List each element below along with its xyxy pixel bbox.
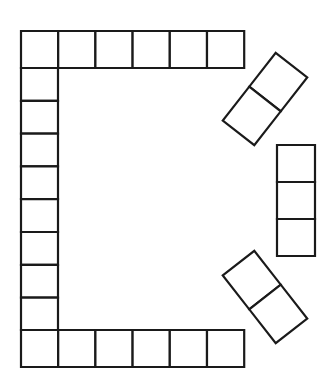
board-track-canvas — [0, 0, 334, 383]
track-cell-bottom-2[interactable] — [58, 330, 95, 367]
track-cell-top-6[interactable] — [207, 31, 244, 68]
track-cell-left-6[interactable] — [21, 232, 58, 265]
track-cell-left-5[interactable] — [21, 199, 58, 232]
track-cell-bottom-3[interactable] — [95, 330, 132, 367]
track-cell-left-4[interactable] — [21, 166, 58, 199]
track-cell-top-3[interactable] — [95, 31, 132, 68]
segment-right-column — [277, 145, 315, 256]
segment-bottom-row — [21, 330, 244, 367]
track-cell-right-1[interactable] — [277, 145, 315, 182]
track-cell-bottom-5[interactable] — [170, 330, 207, 367]
track-cell-left-3[interactable] — [21, 134, 58, 167]
track-cell-bottom-1[interactable] — [21, 330, 58, 367]
track-cell-left-7[interactable] — [21, 265, 58, 298]
track-cell-top-2[interactable] — [58, 31, 95, 68]
track-cell-left-1[interactable] — [21, 68, 58, 101]
segment-top-row — [21, 31, 244, 68]
track-cell-top-5[interactable] — [170, 31, 207, 68]
track-cell-top-4[interactable] — [133, 31, 170, 68]
track-cell-top-1[interactable] — [21, 31, 58, 68]
segment-left-column — [21, 68, 58, 330]
board-track-diagram — [0, 0, 334, 383]
track-cell-left-8[interactable] — [21, 298, 58, 330]
track-cell-bottom-6[interactable] — [207, 330, 244, 367]
track-cell-right-3[interactable] — [277, 219, 315, 256]
track-cell-bottom-4[interactable] — [133, 330, 170, 367]
track-cell-left-2[interactable] — [21, 101, 58, 134]
track-cell-right-2[interactable] — [277, 182, 315, 219]
